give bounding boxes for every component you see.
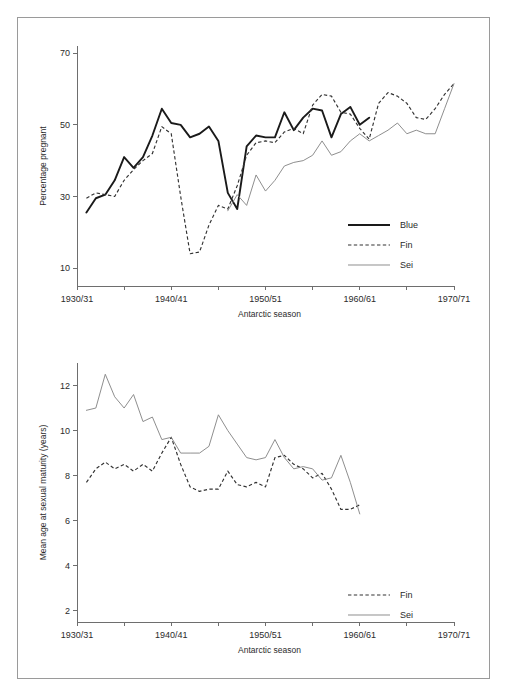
top-series-fin: [86, 84, 454, 254]
top-ytick-label: 70: [60, 48, 70, 58]
bottom-ytick-label: 4: [65, 561, 70, 571]
top-xtick-label: 1950/51: [249, 294, 282, 304]
bottom-xtick-label: 1970/71: [438, 630, 471, 640]
bottom-ytick-label: 10: [60, 426, 70, 436]
bottom-legend-label-fin: Fin: [400, 590, 413, 600]
whale-reproduction-figure: 103050701930/311940/411950/511960/611970…: [18, 18, 489, 678]
top-yaxis-title: Percentage pregnant: [38, 126, 48, 206]
top-series-sei: [228, 84, 454, 211]
top-panel-group: 103050701930/311940/411950/511960/611970…: [38, 46, 470, 319]
top-xtick-label: 1970/71: [438, 294, 471, 304]
bottom-panel-group: 246810121930/311940/411950/511960/611970…: [38, 363, 470, 655]
top-axis-lines: [77, 46, 454, 286]
top-ytick-label: 50: [60, 120, 70, 130]
bottom-yaxis-title: Mean age at sexual maturity (years): [38, 425, 48, 561]
bottom-ytick-label: 8: [65, 471, 70, 481]
top-series-blue: [86, 107, 369, 213]
top-ytick-label: 10: [60, 263, 70, 273]
top-legend-label-sei: Sei: [400, 260, 413, 270]
top-legend-label-blue: Blue: [400, 220, 418, 230]
figure-canvas: 103050701930/311940/411950/511960/611970…: [18, 18, 489, 678]
bottom-ytick-label: 6: [65, 516, 70, 526]
bottom-axis-lines: [77, 363, 454, 622]
bottom-xtick-label: 1940/41: [155, 630, 188, 640]
bottom-xtick-label: 1950/51: [249, 630, 282, 640]
top-xaxis-title: Antarctic season: [238, 309, 301, 319]
bottom-legend-label-sei: Sei: [400, 610, 413, 620]
bottom-xtick-label: 1960/61: [343, 630, 376, 640]
bottom-ytick-label: 12: [60, 381, 70, 391]
figure-frame: 103050701930/311940/411950/511960/611970…: [17, 17, 490, 679]
bottom-series-fin: [86, 437, 359, 509]
top-legend-label-fin: Fin: [400, 240, 413, 250]
top-xtick-label: 1940/41: [155, 294, 188, 304]
top-xtick-label: 1960/61: [343, 294, 376, 304]
bottom-series-sei: [86, 374, 359, 514]
top-ytick-label: 30: [60, 192, 70, 202]
bottom-ytick-label: 2: [65, 606, 70, 616]
bottom-xtick-label: 1930/31: [61, 630, 94, 640]
top-xtick-label: 1930/31: [61, 294, 94, 304]
bottom-xaxis-title: Antarctic season: [238, 645, 301, 655]
